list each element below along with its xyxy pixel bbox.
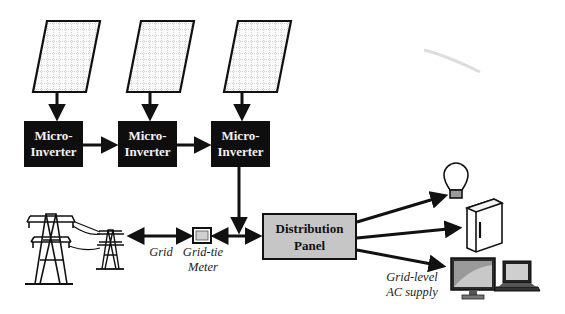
supply-label-line1: Grid-level <box>380 270 444 285</box>
micro-inverter-3-label-line1: Micro- <box>211 128 270 144</box>
solar-panel-1-icon <box>33 21 100 92</box>
grid-label: Grid <box>146 245 176 260</box>
monitor-icon <box>451 258 495 299</box>
micro-inverter-1-label-line1: Micro- <box>24 128 83 144</box>
grid-tie-meter-label-line1: Grid-tie <box>180 245 226 260</box>
diagram-canvas <box>0 0 565 314</box>
distribution-panel-label-line1: Distribution <box>264 220 355 237</box>
transmission-tower-small-icon <box>96 230 124 269</box>
light-bulb-icon <box>444 163 468 198</box>
micro-inverter-3-label-line2: Inverter <box>211 144 270 160</box>
panel-arrows <box>57 92 458 266</box>
micro-inverter-2-label-line2: Inverter <box>118 144 177 160</box>
distribution-panel-label-line2: Panel <box>264 237 355 254</box>
grid-tie-meter-label-line2: Meter <box>180 260 226 275</box>
micro-inverter-2-label-line1: Micro- <box>118 128 177 144</box>
supply-label-line2: AC supply <box>380 285 444 300</box>
laptop-icon <box>494 261 540 291</box>
scan-smudge <box>424 50 480 72</box>
grid-tie-meter-label: Grid-tie Meter <box>180 245 226 275</box>
micro-inverter-1: Micro- Inverter <box>24 121 83 167</box>
solar-panel-2-icon <box>127 21 194 92</box>
micro-inverter-2: Micro- Inverter <box>118 121 177 167</box>
distribution-panel: Distribution Panel <box>262 213 357 260</box>
micro-inverter-3: Micro- Inverter <box>211 121 270 167</box>
transmission-tower-large-icon <box>25 214 100 284</box>
solar-panel-3-icon <box>224 21 291 92</box>
micro-inverter-1-label-line2: Inverter <box>24 144 83 160</box>
refrigerator-icon <box>467 199 502 252</box>
grid-tie-meter-icon <box>193 228 211 243</box>
grid-level-ac-supply-label: Grid-level AC supply <box>380 270 444 300</box>
